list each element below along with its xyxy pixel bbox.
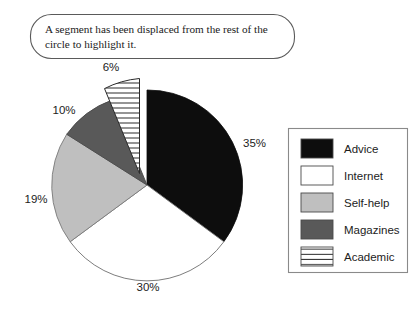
legend-label-advice: Advice — [344, 143, 379, 155]
legend-label-magazines: Magazines — [344, 224, 400, 236]
legend-label-academic: Academic — [344, 251, 395, 263]
legend-label-internet: Internet — [344, 170, 384, 182]
pie-label-academic: 6% — [103, 61, 120, 73]
pie-label-self-help: 19% — [24, 193, 47, 205]
legend-swatch-self-help — [301, 193, 333, 212]
callout-line-2: circle to highlight it. — [45, 38, 137, 50]
pie-chart-figure: A segment has been displaced from the re… — [0, 0, 419, 313]
legend-swatch-academic — [301, 247, 333, 266]
callout-bubble — [31, 15, 295, 59]
legend-swatch-magazines — [301, 220, 333, 239]
legend-swatch-advice — [301, 139, 333, 158]
pie-slices — [52, 79, 243, 281]
callout-line-1: A segment has been displaced from the re… — [45, 23, 268, 35]
annotation-callout: A segment has been displaced from the re… — [31, 15, 295, 59]
legend-swatch-internet — [301, 166, 333, 185]
legend: Advice Internet Self-help Magazines Acad… — [289, 129, 408, 273]
legend-label-self-help: Self-help — [344, 197, 389, 209]
pie-label-magazines: 10% — [52, 104, 75, 116]
pie-label-internet: 30% — [136, 281, 159, 293]
pie-label-advice: 35% — [243, 137, 266, 149]
